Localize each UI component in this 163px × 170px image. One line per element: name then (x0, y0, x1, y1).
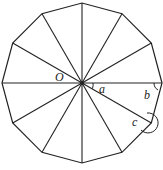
label-angle-b: b (144, 88, 150, 102)
label-angle-a: a (99, 82, 105, 96)
angle-a-arc (93, 83, 94, 89)
center-point (80, 81, 84, 85)
radius-line (42, 83, 82, 152)
radius-line (82, 43, 151, 83)
radius-line (82, 14, 122, 83)
label-angle-c: c (132, 115, 138, 129)
radius-line (82, 83, 151, 123)
dodecagon-diagram: O a b c (0, 0, 163, 170)
angle-b-arc (154, 83, 158, 90)
radius-line (13, 43, 82, 83)
label-center-o: O (55, 70, 64, 84)
radius-line (13, 83, 82, 123)
